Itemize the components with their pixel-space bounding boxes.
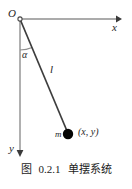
- coordinates-label: (x, y): [78, 127, 99, 137]
- x-axis-label: x: [112, 22, 117, 33]
- mass-label: m: [55, 130, 62, 139]
- caption-prefix: 图: [21, 163, 32, 175]
- angle-label: α: [22, 50, 27, 60]
- length-label: l: [50, 64, 53, 75]
- pendulum-string: [20, 19, 67, 131]
- origin-label: O: [8, 8, 16, 19]
- y-axis-arrowhead: [17, 150, 24, 157]
- caption-title: 单摆系统: [68, 163, 112, 175]
- pendulum-bob: [63, 129, 73, 139]
- figure-caption: 图0.2.1单摆系统: [0, 163, 132, 176]
- origin-point: [18, 17, 22, 21]
- pendulum-figure: O x y α l m (x, y) 图0.2.1单摆系统: [0, 0, 132, 189]
- caption-number: 0.2.1: [39, 163, 61, 175]
- y-axis-label: y: [9, 143, 14, 154]
